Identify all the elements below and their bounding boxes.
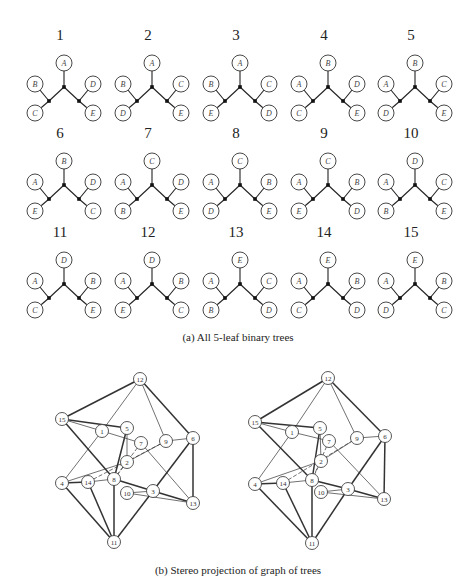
leaf-label: A [296,277,302,286]
leaf-label: B [91,277,96,286]
graph-node-label: 13 [190,500,198,508]
internal-node [135,296,139,300]
graph-node-label: 12 [137,376,145,384]
graph-node-label: 5 [318,425,322,433]
internal-node [253,296,257,300]
leaf-label: B [267,178,272,187]
internal-node [47,296,51,300]
internal-node [135,197,139,201]
tree-number: 8 [232,125,240,141]
tree-edge [49,87,64,101]
tree-edge [152,284,167,298]
tree-2: 2ABDCE [115,27,189,121]
internal-node [62,85,66,89]
thin-edge [328,378,357,438]
internal-node [150,282,154,286]
internal-node [341,296,345,300]
internal-node [150,183,154,187]
leaf-label: B [33,80,38,89]
tree-3: 3ABECD [203,27,277,121]
leaf-label: E [266,207,272,216]
tree-11: 11DACBE [27,224,101,318]
internal-node [238,85,242,89]
tree-15: 15EADBC [378,224,452,318]
thin-edge [102,379,140,431]
tree-edge [313,185,328,199]
thick-edge [384,436,385,499]
tree-6: 6BAEDC [27,125,101,219]
internal-node [253,99,257,103]
tree-edge [137,87,152,101]
leaf-label: B [209,306,214,315]
thin-edge [127,493,193,503]
thick-edge [255,422,312,480]
leaf-label: A [120,178,126,187]
internal-node [62,183,66,187]
leaf-label: D [177,178,184,187]
figure: 1ABCDE2ABDCE3ABECD4BACDE5BADCE6BAEDC7CAB… [0,0,476,586]
leaf-label: B [413,59,418,68]
leaf-label: C [178,80,184,89]
leaf-label: C [441,80,447,89]
leaf-label: D [382,306,389,315]
tree-edge [240,284,255,298]
leaf-label: A [383,178,389,187]
internal-node [47,197,51,201]
internal-node [413,85,417,89]
tree-13: 13EABCD [203,224,277,318]
leaf-label: A [149,59,155,68]
graph-node-label: 9 [164,438,168,446]
internal-node [77,99,81,103]
tree-number: 3 [232,27,240,43]
internal-node [398,296,402,300]
leaf-label: A [120,277,126,286]
thin-edge [62,431,102,483]
tree-4: 4BACDE [291,27,365,121]
leaf-label: A [208,178,214,187]
leaf-label: C [178,306,184,315]
tree-number: 6 [56,125,64,141]
all-5-leaf-binary-trees: 1ABCDE2ABDCE3ABECD4BACDE5BADCE6BAEDC7CAB… [27,27,452,318]
graph-node-label: 15 [59,416,67,424]
tree-7: 7CABDE [115,125,189,219]
leaf-label: E [354,109,360,118]
graph-node-label: 1 [290,429,294,437]
tree-edge [240,185,255,199]
tree-edge [152,87,167,101]
tree-1: 1ABCDE [27,27,101,121]
internal-node [413,282,417,286]
tree-number: 1 [56,27,64,43]
graph-node-label: 7 [327,438,331,446]
stereo-graph-left: 123456789101112131415 [56,373,200,549]
leaf-label: C [32,306,38,315]
graph-node-label: 1 [100,428,104,436]
leaf-label: E [90,306,96,315]
tree-number: 9 [320,125,328,141]
leaf-label: E [178,207,184,216]
tree-edge [64,185,79,199]
leaf-label: A [32,277,38,286]
tree-number: 4 [320,27,328,43]
internal-node [77,197,81,201]
graph-node-label: 4 [60,480,64,488]
graph-node-label: 9 [355,435,359,443]
leaf-label: E [441,109,447,118]
graph-node-label: 3 [151,488,155,496]
internal-node [223,197,227,201]
internal-node [238,183,242,187]
thick-edge [62,419,127,428]
leaf-label: C [237,157,243,166]
leaf-label: B [355,277,360,286]
internal-node [326,85,330,89]
leaf-label: E [441,207,447,216]
tree-8: 8CADBE [203,125,277,219]
tree-edge [328,284,343,298]
internal-node [398,197,402,201]
thick-edge [283,483,312,543]
leaf-label: C [149,157,155,166]
internal-node [326,183,330,187]
leaf-label: B [384,207,389,216]
internal-node [311,99,315,103]
leaf-label: C [441,178,447,187]
tree-number: 2 [144,27,152,43]
